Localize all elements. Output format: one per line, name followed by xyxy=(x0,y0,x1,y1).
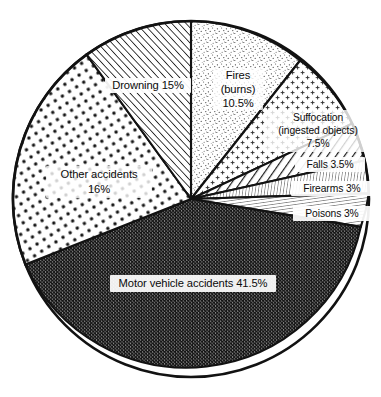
pie-label-falls: Falls 3.5% xyxy=(306,159,353,170)
pie-label-fires-line3: 10.5% xyxy=(222,97,253,109)
pie-label-poisons: Poisons 3% xyxy=(305,208,358,219)
pie-label-suffocation-line2: (ingested objects) xyxy=(278,125,357,136)
pie-chart-figure: Drowning 15% Fires (burns) 10.5% Suffoca… xyxy=(0,0,381,397)
pie-label-fires-line1: Fires xyxy=(226,69,251,81)
pie-label-firearms: Firearms 3% xyxy=(303,183,360,194)
pie-chart-svg: Drowning 15% Fires (burns) 10.5% Suffoca… xyxy=(0,0,381,397)
pie-label-suffocation-line1: Suffocation xyxy=(293,112,344,123)
pie-label-suffocation-line3: 7.5% xyxy=(306,138,329,149)
pie-label-motor-vehicle-accidents: Motor vehicle accidents 41.5% xyxy=(119,277,268,289)
pie-slices xyxy=(13,21,369,377)
pie-label-other-accidents-line2: 16% xyxy=(88,183,110,195)
pie-label-drowning: Drowning 15% xyxy=(112,79,184,91)
pie-label-fires-line2: (burns) xyxy=(221,83,256,95)
pie-label-other-accidents-line1: Other accidents xyxy=(61,168,138,180)
